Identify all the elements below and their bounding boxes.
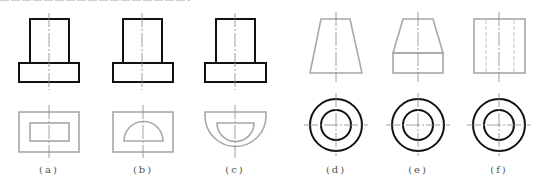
- panel-c-top-view: [205, 105, 266, 158]
- panel-b-top-view: [113, 105, 173, 158]
- panel-label-f: (f): [479, 164, 519, 175]
- panel-label-e: (e): [398, 164, 438, 175]
- panel-label-a: (a): [29, 164, 69, 175]
- panel-label-c: (c): [215, 164, 255, 175]
- panel-b-front-view: [113, 13, 173, 90]
- panel-f-front-view: [474, 12, 525, 82]
- technical-drawing: .k { fill:none; stroke:#111; stroke-widt…: [0, 0, 540, 189]
- panel-label-b: (b): [123, 164, 163, 175]
- panel-d-front-view: [310, 12, 362, 82]
- panel-label-d: (d): [316, 164, 356, 175]
- panel-a-top-view: [19, 105, 79, 158]
- panel-d-top-view: [304, 93, 368, 156]
- panel-e-front-view: [393, 12, 443, 82]
- panel-c-front-view: [205, 13, 266, 90]
- panel-e-top-view: [386, 93, 450, 156]
- panel-a-front-view: [19, 13, 79, 90]
- panel-f-top-view: [467, 93, 531, 156]
